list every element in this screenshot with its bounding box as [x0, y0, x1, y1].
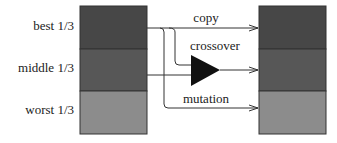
label-crossover: crossover: [190, 38, 240, 53]
label-copy: copy: [193, 10, 219, 25]
segment-top: [259, 6, 326, 49]
source-population: [80, 6, 147, 134]
label-best: best 1/3: [33, 18, 74, 33]
crossover-input-best: [169, 28, 191, 65]
label-worst: worst 1/3: [25, 102, 74, 117]
crossover-operator-icon: [191, 55, 220, 86]
target-population: [259, 6, 326, 134]
segment-best: [80, 6, 147, 49]
segment-worst: [80, 91, 147, 134]
segment-middle: [80, 49, 147, 91]
segment-bottom: [259, 91, 326, 134]
label-middle: middle 1/3: [18, 60, 74, 75]
label-mutation: mutation: [183, 91, 230, 106]
segment-center: [259, 49, 326, 91]
genetic-algorithm-diagram: best 1/3 middle 1/3 worst 1/3 copy mutat…: [0, 0, 337, 143]
